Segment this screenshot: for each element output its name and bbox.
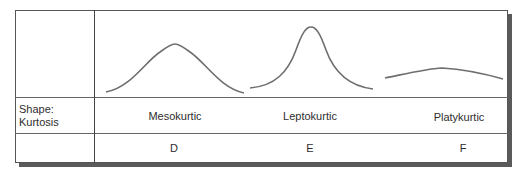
mesokurtic-curve-icon bbox=[106, 44, 244, 93]
letter-label-e: E bbox=[306, 142, 313, 154]
row-header-line1: Shape: bbox=[19, 103, 59, 116]
letter-label-d: D bbox=[170, 142, 178, 154]
row-header-line2: Kurtosis bbox=[19, 116, 59, 129]
leptokurtic-curve-icon bbox=[250, 27, 373, 89]
shape-label-leptokurtic: Leptokurtic bbox=[283, 110, 337, 122]
kurtosis-curves bbox=[0, 0, 520, 183]
letter-label-f: F bbox=[460, 142, 467, 154]
row-header-label: Shape: Kurtosis bbox=[19, 103, 59, 129]
platykurtic-curve-icon bbox=[385, 68, 503, 79]
shape-label-mesokurtic: Mesokurtic bbox=[148, 110, 201, 122]
shape-label-platykurtic: Platykurtic bbox=[434, 111, 485, 123]
